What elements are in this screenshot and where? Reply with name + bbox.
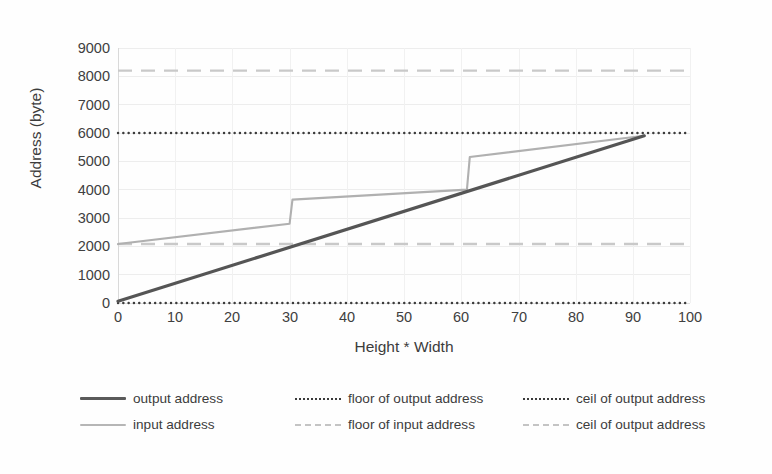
x-axis-line [118,303,690,304]
gridline-v-20 [232,48,233,303]
x-tick-50: 50 [384,309,424,325]
y-axis-title: Address (byte) [27,38,45,238]
dotted-dark-line-icon [523,394,569,404]
legend-label-floor-of-input-address: floor of input address [348,418,475,432]
y-tick-4000: 4000 [58,182,110,198]
legend-item-floor-of-output-address[interactable]: floor of output address [295,392,523,406]
gridline-v-50 [404,48,405,303]
solid-light-line-icon [80,420,126,430]
x-axis-title: Height * Width [118,338,690,356]
x-tick-40: 40 [327,309,367,325]
legend-item-input-address[interactable]: input address [80,418,295,432]
x-tick-80: 80 [556,309,596,325]
legend-item-output-address[interactable]: output address [80,392,295,406]
gridline-v-100 [690,48,691,303]
y-tick-2000: 2000 [58,238,110,254]
y-tick-5000: 5000 [58,153,110,169]
legend-item-ceil-of-output-address-2[interactable]: ceil of output address [523,418,723,432]
legend-label-ceil-of-output-address-2: ceil of output address [576,418,705,432]
x-tick-20: 20 [212,309,252,325]
y-tick-6000: 6000 [58,125,110,141]
y-tick-1000: 1000 [58,267,110,283]
solid-dark-line-icon [80,394,126,404]
x-tick-90: 90 [613,309,653,325]
y-tick-9000: 9000 [58,40,110,56]
x-tick-30: 30 [270,309,310,325]
legend-item-floor-of-input-address[interactable]: floor of input address [295,418,523,432]
x-tick-60: 60 [441,309,481,325]
dashed-light-line-icon [295,420,341,430]
legend-label-input-address: input address [133,418,215,432]
dotted-dark-line-icon [295,394,341,404]
x-tick-10: 10 [155,309,195,325]
gridline-v-10 [175,48,176,303]
gridline-v-80 [576,48,577,303]
gridline-v-60 [461,48,462,303]
gridline-v-90 [633,48,634,303]
dashed-light-line-icon [523,420,569,430]
gridline-v-30 [290,48,291,303]
y-axis-line [118,48,119,303]
legend-label-output-address: output address [133,392,223,406]
x-tick-0: 0 [98,309,138,325]
legend-label-ceil-of-output-address: ceil of output address [576,392,705,406]
gridline-v-70 [519,48,520,303]
y-tick-7000: 7000 [58,97,110,113]
chart-figure: 9000 8000 7000 6000 5000 4000 3000 2000 … [0,0,772,474]
y-tick-3000: 3000 [58,210,110,226]
x-tick-100: 100 [670,309,710,325]
gridline-v-40 [347,48,348,303]
legend-item-ceil-of-output-address[interactable]: ceil of output address [523,392,723,406]
x-tick-70: 70 [499,309,539,325]
chart-legend: output address floor of output address c… [80,386,700,438]
y-tick-8000: 8000 [58,68,110,84]
legend-label-floor-of-output-address: floor of output address [348,392,483,406]
